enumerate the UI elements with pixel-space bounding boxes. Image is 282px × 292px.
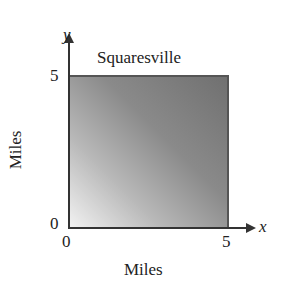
- y-axis: [68, 40, 70, 229]
- squaresville-region: [70, 75, 229, 228]
- x-axis-title: Miles: [124, 261, 163, 278]
- x-tick-5: 5: [222, 233, 231, 250]
- x-axis-arrow-icon: [246, 223, 256, 233]
- x-axis: [68, 227, 248, 229]
- y-variable-label: y: [63, 26, 71, 43]
- region-title: Squaresville: [97, 49, 181, 66]
- x-variable-label: x: [259, 218, 267, 235]
- x-tick-0: 0: [62, 233, 71, 250]
- y-tick-0: 0: [50, 215, 59, 232]
- y-axis-title: Miles: [7, 131, 24, 170]
- y-tick-5: 5: [50, 67, 59, 84]
